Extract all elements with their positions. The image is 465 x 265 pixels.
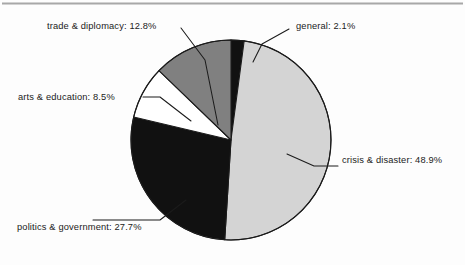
label-crisis-disaster: crisis & disaster: 48.9%	[342, 155, 442, 165]
label-arts-education: arts & education: 8.5%	[18, 92, 115, 102]
pie-slices	[131, 40, 331, 240]
pie-chart-figure: general: 2.1% crisis & disaster: 48.9% p…	[0, 0, 465, 265]
label-politics-government: politics & government: 27.7%	[17, 222, 142, 232]
label-general: general: 2.1%	[296, 21, 355, 31]
label-trade-diplomacy: trade & diplomacy: 12.8%	[47, 21, 157, 31]
